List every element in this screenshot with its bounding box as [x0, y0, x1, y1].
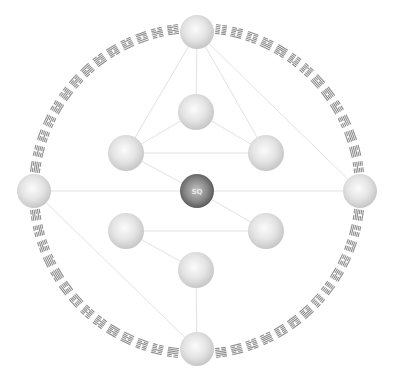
sphere-upper-right-body	[248, 135, 284, 171]
hexagram-45	[37, 239, 50, 253]
connector-top-outer-upper-left	[126, 32, 197, 153]
hexagram-10	[321, 87, 335, 102]
hexagram-43	[50, 268, 64, 282]
hexagram-50	[30, 161, 41, 173]
sphere-lower-right[interactable]	[248, 213, 284, 249]
hexagram-46	[33, 224, 45, 237]
hexagram-53	[43, 114, 57, 128]
hexagram-52	[37, 129, 50, 143]
hexagram-36	[135, 338, 149, 351]
hexagram-44	[43, 254, 57, 268]
hexagram-12	[338, 114, 352, 128]
hexagram-2	[215, 24, 227, 35]
hexagram-19	[349, 224, 361, 237]
connector-left-outer-bottom-outer	[34, 191, 197, 349]
hexagram-4	[245, 31, 259, 44]
hexagram-18	[353, 209, 364, 221]
sphere-top-outer[interactable]	[180, 15, 214, 49]
hexagram-8	[299, 63, 314, 78]
hexagram-37	[120, 332, 134, 346]
hexagram-62	[151, 27, 164, 39]
hexagram-21	[338, 254, 352, 268]
sphere-upper-middle-body	[178, 94, 214, 130]
sphere-bottom-outer-body	[180, 332, 214, 366]
hexagram-60	[120, 37, 134, 51]
hexagram-38	[106, 324, 120, 338]
hexagram-11	[330, 100, 344, 114]
sphere-label: SQ	[192, 188, 203, 196]
hexagram-5	[260, 37, 274, 51]
hexagram-27	[274, 324, 288, 338]
sphere-right-outer-body	[343, 174, 377, 208]
hexagram-28	[260, 332, 274, 346]
hexagram-58	[93, 53, 108, 67]
hexagram-51	[33, 145, 45, 158]
hexagram-47	[30, 209, 41, 221]
sphere-right-outer[interactable]	[343, 174, 377, 208]
hexagram-13	[344, 129, 357, 143]
sphere-bottom-inner[interactable]	[178, 252, 214, 288]
hexagram-41	[69, 293, 84, 308]
sphere-upper-middle[interactable]	[178, 94, 214, 130]
hexagram-39	[93, 315, 108, 329]
sphere-upper-left[interactable]	[108, 135, 144, 171]
sphere-lower-left[interactable]	[108, 213, 144, 249]
hexagram-20	[344, 239, 357, 253]
hexagram-6	[274, 44, 288, 58]
hexagram-34	[167, 347, 179, 358]
connector-top-outer-right-outer	[197, 32, 360, 191]
hexagram-24	[310, 293, 325, 308]
hexagram-54	[50, 100, 64, 114]
hexagram-3	[230, 27, 243, 39]
sphere-top-outer-body	[180, 15, 214, 49]
sphere-upper-left-body	[108, 135, 144, 171]
hexagram-14	[349, 145, 361, 158]
hexagram-30	[230, 343, 243, 355]
hexagram-9	[310, 74, 325, 89]
hexagram-59	[106, 44, 120, 58]
sphere-bottom-outer[interactable]	[180, 332, 214, 366]
sphere-left-outer[interactable]	[17, 174, 51, 208]
hexagram-63	[167, 24, 179, 35]
connector-top-outer-upper-right	[197, 32, 266, 153]
sphere-center[interactable]: SQ	[180, 174, 214, 208]
hexagram-26	[287, 315, 302, 329]
hexagram-22	[330, 268, 344, 282]
hexagram-29	[245, 338, 259, 351]
hexagram-15	[353, 161, 364, 173]
hexagram-31	[215, 347, 227, 358]
hexagram-42	[59, 281, 73, 296]
hexagram-40	[80, 304, 95, 319]
hexagram-7	[287, 53, 302, 67]
hexagram-55	[59, 87, 73, 102]
hexagram-25	[299, 304, 314, 319]
hexagram-56	[69, 74, 84, 89]
sphere-lower-right-body	[248, 213, 284, 249]
sphere-left-outer-body	[17, 174, 51, 208]
hexagram-57	[80, 63, 95, 78]
hexagram-35	[151, 343, 164, 355]
sphere-bottom-inner-body	[178, 252, 214, 288]
hexagram-23	[321, 281, 335, 296]
hexagram-61	[135, 31, 149, 44]
tree-of-life-hexagram-diagram: SQ	[0, 0, 394, 381]
sphere-lower-left-body	[108, 213, 144, 249]
sphere-upper-right[interactable]	[248, 135, 284, 171]
